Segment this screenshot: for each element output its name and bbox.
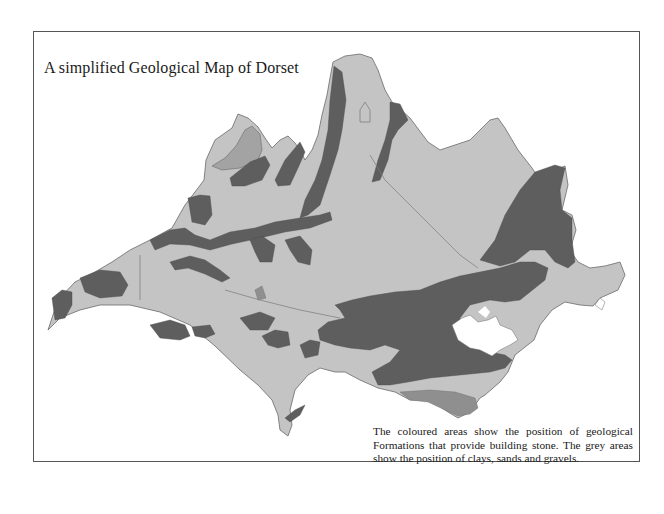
- map-title: A simplified Geological Map of Dorset: [44, 59, 299, 77]
- map-caption: The coloured areas show the position of …: [373, 425, 633, 466]
